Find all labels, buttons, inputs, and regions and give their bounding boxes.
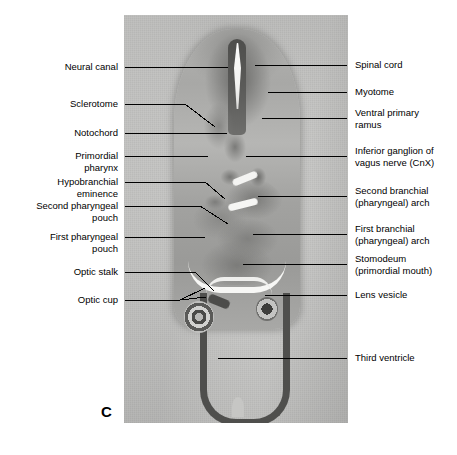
leader-sclerotome	[125, 104, 215, 127]
label-lens-vesicle: Lens vesicle	[355, 289, 455, 301]
label-stomodeum: Stomodeum (primordial mouth)	[355, 253, 457, 276]
label-first-branchial-arch: First branchial (pharyngeal) arch	[355, 223, 457, 246]
label-spinal-cord: Spinal cord	[355, 59, 455, 71]
label-neural-canal: Neural canal	[10, 61, 118, 73]
leader-second-pouch	[125, 206, 228, 224]
label-third-ventricle: Third ventricle	[355, 352, 455, 364]
label-sclerotome: Sclerotome	[10, 98, 118, 110]
panel-letter: C	[101, 403, 112, 420]
anatomy-figure-panel-c: Neural canal Sclerotome Notochord Primor…	[0, 0, 457, 455]
leader-optic-stalk	[125, 272, 214, 291]
leader-hypobranchial	[125, 182, 225, 199]
label-ventral-primary-ramus: Ventral primary ramus	[355, 107, 455, 130]
label-hypobranchial-eminence: Hypobranchial eminence	[6, 176, 118, 199]
label-optic-stalk: Optic stalk	[10, 266, 118, 278]
label-notochord: Notochord	[10, 127, 118, 139]
label-inferior-ganglion-vagus: Inferior ganglion of vagus nerve (CnX)	[355, 145, 457, 168]
label-second-pharyngeal-pouch: Second pharyngeal pouch	[2, 200, 118, 223]
label-primordial-pharynx: Primordial pharynx	[10, 150, 118, 173]
label-myotome: Myotome	[355, 86, 455, 98]
label-second-branchial-arch: Second branchial (pharyngeal) arch	[355, 185, 457, 208]
label-optic-cup: Optic cup	[10, 294, 118, 306]
label-first-pharyngeal-pouch: First pharyngeal pouch	[6, 231, 118, 254]
